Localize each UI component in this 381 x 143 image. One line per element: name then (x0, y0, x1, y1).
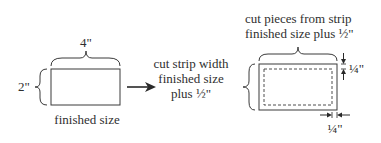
strip-width-brace (243, 64, 255, 110)
width-brace (51, 51, 120, 66)
strip-width-note-line-2: finished size (150, 72, 232, 86)
side-seam-label: ¼" (326, 122, 344, 136)
strip-width-note-line-3: plus ½" (150, 87, 232, 101)
seam-line (264, 69, 332, 105)
finished-rectangle (51, 69, 120, 105)
finished-size-caption: finished size (50, 113, 124, 127)
height-brace (35, 69, 47, 105)
pieces-note-line-1: cut pieces from strip (245, 12, 351, 26)
cut-rectangle (259, 64, 337, 110)
pieces-brace (259, 47, 337, 61)
top-seam-label: ¼" (349, 62, 367, 76)
pieces-note-line-2: finished size plus ½" (245, 27, 351, 41)
strip-width-note-line-1: cut strip width (150, 57, 232, 71)
top-seam-marker (341, 53, 346, 80)
side-seam-marker (320, 112, 350, 118)
height-label: 2" (14, 80, 34, 94)
width-label: 4" (76, 36, 96, 50)
